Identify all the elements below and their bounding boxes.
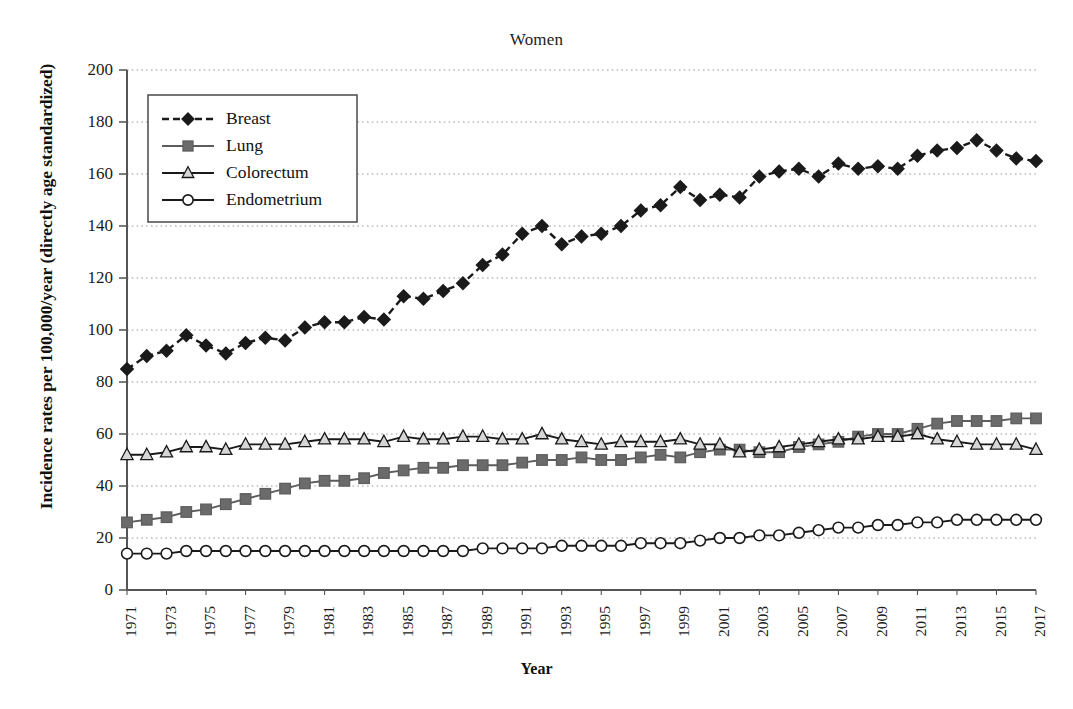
x-tick-label: 2001 <box>715 606 732 637</box>
series-lung <box>122 413 1042 528</box>
y-tick-label: 80 <box>96 372 113 391</box>
y-tick-label: 140 <box>88 216 114 235</box>
x-tick-label: 1987 <box>438 606 455 637</box>
x-tick-label: 1981 <box>320 606 337 637</box>
series-endometrium <box>122 514 1042 559</box>
x-tick-label: 1983 <box>359 606 376 637</box>
x-tick-label: 2017 <box>1031 606 1048 637</box>
x-tick-label: 1971 <box>122 606 139 637</box>
x-tick-label: 1977 <box>241 606 258 637</box>
legend-label-colorectum: Colorectum <box>226 162 309 182</box>
legend-label-breast: Breast <box>226 108 271 128</box>
x-tick-label: 1995 <box>596 606 613 637</box>
y-tick-label: 60 <box>96 424 113 443</box>
x-tick-label: 2011 <box>912 606 929 636</box>
legend-label-endometrium: Endometrium <box>226 189 323 209</box>
y-tick-label: 160 <box>88 164 114 183</box>
y-axis-ticks: 020406080100120140160180200 <box>88 60 128 599</box>
y-tick-label: 0 <box>105 580 114 599</box>
y-tick-label: 40 <box>96 476 113 495</box>
x-tick-label: 2013 <box>952 606 969 637</box>
x-tick-label: 1975 <box>201 606 218 637</box>
y-tick-label: 20 <box>96 528 113 547</box>
y-tick-label: 180 <box>88 112 114 131</box>
x-tick-label: 1973 <box>162 606 179 637</box>
plot-area: 020406080100120140160180200 197119731975… <box>0 0 1073 709</box>
chart-figure: Women Incidence rates per 100,000/year (… <box>0 0 1073 709</box>
x-tick-label: 1999 <box>675 606 692 637</box>
y-tick-label: 100 <box>88 320 114 339</box>
x-tick-label: 1979 <box>280 606 297 637</box>
y-tick-label: 200 <box>88 60 114 79</box>
x-tick-label: 2007 <box>833 606 850 637</box>
x-tick-label: 2005 <box>794 606 811 637</box>
y-tick-label: 120 <box>88 268 114 287</box>
x-tick-label: 1985 <box>399 606 416 637</box>
x-axis-ticks: 1971197319751977197919811983198519871989… <box>122 590 1048 637</box>
x-tick-label: 2003 <box>754 606 771 637</box>
x-tick-label: 1989 <box>478 606 495 637</box>
x-tick-label: 2015 <box>992 606 1009 637</box>
chart-legend: BreastLungColorectumEndometrium <box>148 95 357 222</box>
legend-label-lung: Lung <box>226 135 263 155</box>
x-tick-label: 1993 <box>557 606 574 637</box>
x-tick-label: 1991 <box>517 606 534 637</box>
x-tick-label: 1997 <box>636 606 653 637</box>
x-tick-label: 2009 <box>873 606 890 637</box>
